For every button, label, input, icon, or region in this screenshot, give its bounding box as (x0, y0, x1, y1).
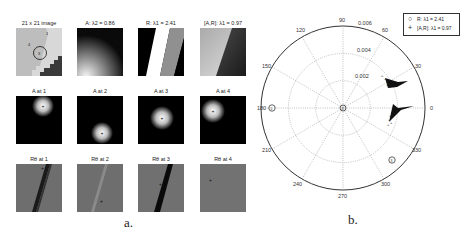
caption-b: b. (348, 212, 358, 228)
svg-text:90: 90 (339, 17, 345, 23)
panel-title-ar-lambda1: [A,R]: λ1 = 0.97 (193, 20, 253, 26)
circle-marker-icon: ○ (407, 16, 413, 22)
svg-text:+: + (41, 165, 44, 171)
polar-legend: ○ R: λ1 = 2.41 + [A,R]: λ1 = 0.97 (403, 13, 460, 36)
legend-label-r: R: λ1 = 2.41 (417, 16, 444, 22)
legend-item-r: ○ R: λ1 = 2.41 (407, 16, 444, 22)
svg-text:0.004: 0.004 (357, 47, 371, 53)
rtheta-image-4: + (200, 164, 246, 212)
svg-text:0.002: 0.002 (355, 73, 369, 79)
svg-text:30: 30 (415, 63, 421, 69)
panel-title-a-at-4: A at 4 (193, 88, 253, 94)
panel-title-rtheta-at-1: Rθ at 1 (9, 156, 69, 162)
panel-title-r-lambda1: R: λ1 = 2.41 (131, 20, 191, 26)
panel-title-a-lambda2: A: λ2 = 0.86 (70, 20, 130, 26)
panel-title-rtheta-at-4: Rθ at 4 (193, 156, 253, 162)
legend-item-ar: + [A,R]: λ1 = 0.97 (407, 25, 452, 31)
blob-image-2: + (77, 96, 123, 144)
svg-text:0: 0 (430, 105, 433, 111)
svg-text:120: 120 (296, 27, 305, 33)
blob-image-4: + (200, 96, 246, 144)
svg-text:240: 240 (293, 181, 302, 187)
combined-image (200, 28, 246, 76)
svg-text:2: 2 (342, 107, 344, 111)
svg-text:+: + (101, 130, 104, 136)
stripes-image (138, 28, 184, 76)
panel-title-rtheta-at-2: Rθ at 2 (70, 156, 130, 162)
svg-text:+: + (390, 120, 393, 125)
panel-title-source: 21 x 21 image (9, 20, 69, 26)
svg-text:+: + (100, 198, 103, 204)
svg-text:3: 3 (391, 159, 393, 163)
svg-text:150: 150 (262, 63, 271, 69)
svg-text:330: 330 (412, 147, 421, 153)
svg-text:60: 60 (382, 27, 388, 33)
svg-text:180: 180 (257, 105, 266, 111)
gradient-image (77, 28, 123, 76)
svg-text:+: + (159, 181, 162, 187)
svg-text:+: + (212, 108, 215, 114)
svg-text:270: 270 (338, 193, 347, 199)
caption-a: a. (124, 215, 133, 231)
source-image: 1 4 3 2 (16, 28, 62, 76)
svg-text:+: + (42, 103, 45, 109)
svg-text:0.006: 0.006 (358, 20, 372, 26)
legend-label-ar: [A,R]: λ1 = 0.97 (417, 25, 452, 31)
panel-title-a-at-3: A at 3 (131, 88, 191, 94)
blob-image-1: + (16, 96, 62, 144)
panel-title-a-at-2: A at 2 (70, 88, 130, 94)
rtheta-image-2: + (77, 164, 123, 212)
panel-title-a-at-1: A at 1 (9, 88, 69, 94)
svg-text:210: 210 (262, 147, 271, 153)
rtheta-image-3: + (138, 164, 184, 212)
panel-title-rtheta-at-3: Rθ at 3 (131, 156, 191, 162)
svg-text:+: + (209, 177, 212, 183)
svg-text:+: + (161, 115, 164, 121)
svg-text:300: 300 (381, 181, 390, 187)
svg-text:1: 1 (271, 107, 273, 111)
rtheta-image-1: + (16, 164, 62, 212)
blob-image-3: + (138, 96, 184, 144)
plus-marker-icon: + (407, 25, 413, 31)
